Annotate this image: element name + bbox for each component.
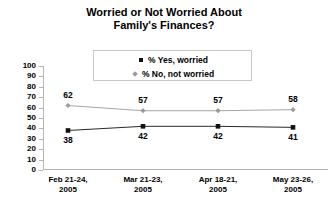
y-axis-tick-label: 60: [14, 104, 36, 112]
x-axis-label-range: Feb 21-24,: [48, 175, 87, 184]
x-axis-label-year: 2005: [32, 185, 104, 195]
y-axis-tick-label: 100: [14, 62, 36, 70]
y-axis-tick-label: 0: [14, 166, 36, 174]
y-axis-tick-label: 30: [14, 135, 36, 143]
x-axis-tick-label: May 23-26,2005: [257, 175, 328, 195]
data-point-diamond-marker-icon: [140, 108, 145, 113]
chart-title-line-2: Family's Finances?: [0, 19, 328, 32]
x-axis-label-year: 2005: [182, 185, 254, 195]
data-point-square-marker-icon: [216, 124, 221, 129]
x-axis-label-year: 2005: [107, 185, 179, 195]
data-point-square-marker-icon: [141, 124, 146, 129]
data-point-value-label: 62: [57, 91, 79, 100]
y-axis-tick-mark: [39, 170, 43, 171]
series-line: [68, 106, 293, 111]
data-point-value-label: 38: [57, 136, 79, 145]
series-plot: [43, 66, 328, 170]
data-point-value-label: 42: [207, 132, 229, 141]
y-axis-tick-label: 90: [14, 72, 36, 80]
x-axis-label-range: Apr 18-21,: [199, 175, 238, 184]
x-axis-label-range: Mar 21-23,: [123, 175, 162, 184]
series-line: [68, 126, 293, 130]
data-point-diamond-marker-icon: [65, 103, 70, 108]
chart-container: Worried or Not Worried About Family's Fi…: [0, 0, 328, 214]
y-axis-tick-label: 40: [14, 124, 36, 132]
data-point-diamond-marker-icon: [215, 108, 220, 113]
data-point-diamond-marker-icon: [290, 107, 295, 112]
chart-title-line-1: Worried or Not Worried About: [86, 6, 242, 18]
y-axis-tick-label: 20: [14, 145, 36, 153]
data-point-value-label: 57: [132, 96, 154, 105]
legend-square-marker-icon: [139, 58, 143, 62]
data-point-value-label: 41: [282, 133, 304, 142]
y-axis-tick-label: 70: [14, 93, 36, 101]
y-axis-tick-label: 80: [14, 83, 36, 91]
data-point-value-label: 57: [207, 96, 229, 105]
y-axis-tick-label: 10: [14, 156, 36, 164]
x-axis-tick-label: Feb 21-24,2005: [32, 175, 104, 195]
legend-item-label: % Yes, worried: [148, 55, 208, 65]
y-axis-tick-label: 50: [14, 114, 36, 122]
x-axis-tick-label: Apr 18-21,2005: [182, 175, 254, 195]
legend-item-yes-worried: % Yes, worried: [94, 53, 253, 66]
x-axis-label-year: 2005: [257, 185, 328, 195]
data-point-value-label: 42: [132, 132, 154, 141]
chart-title: Worried or Not Worried About Family's Fi…: [0, 6, 328, 32]
x-axis-label-range: May 23-26,: [273, 175, 313, 184]
x-axis-tick-label: Mar 21-23,2005: [107, 175, 179, 195]
data-point-square-marker-icon: [291, 125, 296, 130]
data-point-value-label: 58: [282, 95, 304, 104]
data-point-square-marker-icon: [66, 128, 71, 133]
